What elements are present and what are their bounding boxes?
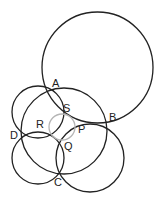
point-label-p: P	[78, 123, 85, 135]
circle-upper-left	[12, 86, 64, 138]
point-label-a: A	[52, 77, 60, 89]
circles-diagram: ABCDSPRQ	[0, 0, 163, 203]
circle-top-large	[42, 12, 153, 123]
point-label-d: D	[10, 129, 18, 141]
circle-inner-gray	[49, 114, 75, 140]
circle-lower-right	[56, 124, 124, 192]
point-label-r: R	[36, 118, 44, 130]
point-label-s: S	[63, 102, 70, 114]
point-label-q: Q	[64, 140, 73, 152]
point-label-c: C	[54, 176, 62, 188]
point-label-b: B	[109, 111, 116, 123]
